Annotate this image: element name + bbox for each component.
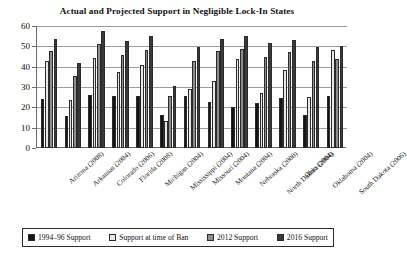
bar	[197, 47, 201, 148]
y-tick-mark	[32, 148, 36, 149]
bar	[112, 96, 116, 148]
bar	[160, 115, 164, 148]
bar	[208, 102, 212, 148]
plot-wrapper: 0102030405060	[36, 26, 346, 148]
legend-item: 2012 Support	[207, 233, 258, 242]
legend-label: 2016 Support	[287, 233, 328, 242]
bar	[49, 51, 53, 148]
bar	[216, 51, 220, 148]
legend-item: 1994–96 Support	[28, 233, 91, 242]
bar	[327, 96, 331, 148]
bar	[101, 31, 105, 148]
legend-item: Support at time of Ban	[109, 233, 188, 242]
y-tick-label: 0	[26, 143, 31, 153]
legend-label: 2012 Support	[217, 233, 258, 242]
y-tick-label: 50	[21, 41, 30, 51]
bar	[168, 96, 172, 148]
y-tick-label: 40	[21, 62, 30, 72]
bar	[279, 98, 283, 148]
legend-item: 2016 Support	[277, 233, 328, 242]
y-tick-label: 60	[21, 21, 30, 31]
chart-title: Actual and Projected Support in Negligib…	[0, 6, 354, 16]
bar	[303, 115, 307, 148]
bar	[240, 49, 244, 148]
bar	[316, 47, 320, 148]
legend-swatch-icon	[277, 234, 284, 241]
bar-group	[85, 26, 109, 148]
legend-swatch-icon	[28, 234, 35, 241]
bar-group	[61, 26, 85, 148]
bar	[54, 39, 58, 148]
bar	[125, 41, 129, 148]
y-tick-mark	[32, 46, 36, 47]
bar-group	[180, 26, 204, 148]
bar	[184, 96, 188, 148]
bars-layer	[37, 26, 347, 148]
bar	[220, 39, 224, 148]
plot-area	[36, 26, 346, 148]
bar	[73, 76, 77, 148]
bar	[77, 63, 81, 148]
bar	[331, 50, 335, 148]
bar	[192, 61, 196, 148]
bar	[255, 103, 259, 148]
bar-group	[109, 26, 133, 148]
y-tick-label: 10	[21, 123, 30, 133]
bar-group	[228, 26, 252, 148]
bar-group	[156, 26, 180, 148]
bar	[292, 40, 296, 148]
bar	[145, 50, 149, 148]
bar-group	[132, 26, 156, 148]
y-tick-mark	[32, 26, 36, 27]
bar	[335, 59, 339, 148]
x-tick-label: Ohio (2004)	[303, 150, 335, 180]
y-tick-mark	[32, 87, 36, 88]
bar	[268, 43, 272, 148]
bar	[93, 58, 97, 148]
bar	[140, 65, 144, 148]
y-tick-label: 20	[21, 102, 30, 112]
bar	[236, 59, 240, 148]
bar	[212, 81, 216, 148]
bar-group	[323, 26, 347, 148]
bar	[65, 116, 69, 148]
legend-label: Support at time of Ban	[119, 233, 188, 242]
legend-swatch-icon	[109, 234, 116, 241]
bar	[149, 36, 153, 148]
bar-group	[204, 26, 228, 148]
bar	[307, 97, 311, 148]
bar	[69, 100, 73, 148]
bar	[136, 96, 140, 148]
bar-group	[37, 26, 61, 148]
bar-group	[252, 26, 276, 148]
legend-swatch-icon	[207, 234, 214, 241]
y-tick-label: 30	[21, 82, 30, 92]
bar	[264, 57, 268, 149]
bar	[45, 61, 49, 148]
y-tick-mark	[32, 107, 36, 108]
bar	[173, 86, 177, 148]
bar-group	[299, 26, 323, 148]
bar	[117, 72, 121, 148]
bar	[188, 89, 192, 148]
bar	[121, 55, 125, 148]
y-tick-mark	[32, 67, 36, 68]
bar	[288, 52, 292, 148]
x-axis-labels: Arizona (2008)Arkansas (2004)Colorado (2…	[36, 150, 346, 210]
bar	[97, 44, 101, 148]
bar	[260, 93, 264, 148]
legend-label: 1994–96 Support	[38, 233, 91, 242]
bar	[231, 107, 235, 148]
bar	[340, 46, 344, 148]
bar	[244, 36, 248, 148]
bar	[283, 70, 287, 148]
bar-group	[275, 26, 299, 148]
bar	[164, 121, 168, 148]
bar	[312, 61, 316, 148]
chart-legend: 1994–96 SupportSupport at time of Ban201…	[22, 228, 334, 247]
bar	[41, 99, 45, 148]
bar	[88, 95, 92, 148]
y-tick-mark	[32, 128, 36, 129]
